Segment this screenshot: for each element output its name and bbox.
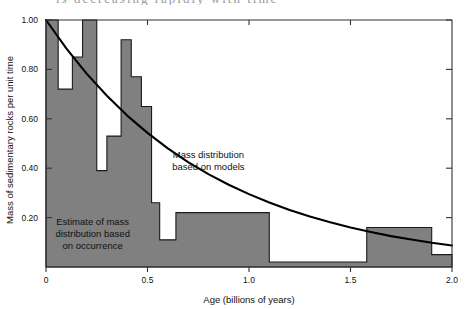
annotation-line: Estimate of mass xyxy=(56,216,129,227)
chart-figure: is decreasing rapidly with time Mass of … xyxy=(0,0,466,309)
x-axis-title: Age (billions of years) xyxy=(203,294,294,305)
y-tick-label: 0.80 xyxy=(21,64,38,74)
x-tick-label: 1.5 xyxy=(345,275,357,285)
x-tick-label: 2.0 xyxy=(446,275,458,285)
annotation-estimate-label: Estimate of massdistribution basedon occ… xyxy=(55,216,129,251)
x-tick-label: 0 xyxy=(44,275,49,285)
annotation-line: based on models xyxy=(172,161,245,172)
scan-artifact-text: is decreasing rapidly with time xyxy=(56,0,356,5)
annotation-line: Mass distribution xyxy=(173,149,244,160)
sedimentary-mass-chart: Mass of sedimentary rocks per unit time … xyxy=(0,0,466,309)
y-axis-title: Mass of sedimentary rocks per unit time xyxy=(4,56,15,224)
y-tick-label: 0.60 xyxy=(21,114,38,124)
annotation-line: on occurrence xyxy=(63,240,123,251)
y-tick-label: 1.00 xyxy=(21,15,38,25)
annotation-model-label: Mass distributionbased on models xyxy=(172,149,245,172)
x-tick-label: 1.0 xyxy=(243,275,255,285)
y-tick-label: 0.20 xyxy=(21,213,38,223)
y-tick-label: 0.40 xyxy=(21,163,38,173)
x-tick-label: 0.5 xyxy=(142,275,154,285)
annotation-line: distribution based xyxy=(55,228,129,239)
